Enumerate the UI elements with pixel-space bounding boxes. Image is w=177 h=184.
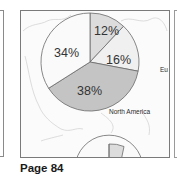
slice-label-34: 34% bbox=[54, 46, 79, 60]
page-thumbnail[interactable]: 12% 16% 38% 34% North America Eu bbox=[20, 10, 170, 158]
second-pie-chart bbox=[76, 135, 142, 157]
previous-page-thumbnail[interactable] bbox=[0, 10, 4, 157]
map-label-north-america: North America bbox=[109, 108, 151, 115]
slice-label-38: 38% bbox=[77, 84, 102, 98]
map-label-europe: Eu bbox=[160, 66, 168, 73]
next-page-thumbnail[interactable] bbox=[174, 10, 177, 158]
slice-label-12: 12% bbox=[94, 24, 119, 38]
page-number-label: Page 84 bbox=[20, 162, 63, 174]
map-pie-chart: 12% 16% 38% 34% North America Eu bbox=[21, 11, 169, 157]
slice-label-16: 16% bbox=[106, 53, 131, 67]
